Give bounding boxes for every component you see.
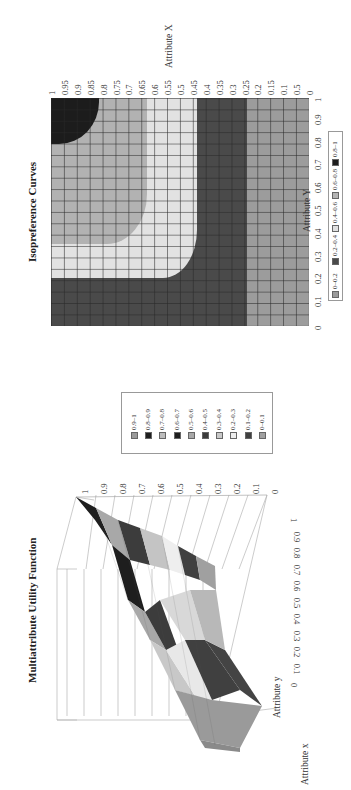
iso-x-tick: 0 (305, 91, 315, 95)
mau-z-tick: 0.5 (175, 483, 185, 494)
legend-label: 0.2–0.4 (331, 235, 339, 256)
legend-swatch (332, 291, 339, 298)
iso-x-tick: 0.4 (202, 84, 212, 95)
iso-x-tick: 0.5 (176, 84, 186, 95)
legend-swatch (216, 432, 223, 439)
legend-swatch (332, 225, 339, 232)
iso-x-tick: 0.35 (215, 80, 225, 95)
iso-legend-item: 0–0.2 (331, 273, 339, 298)
mau-y-tick: 0.7 (292, 564, 302, 575)
legend-swatch (159, 432, 166, 439)
mau-legend-item: 0.7–0.8 (158, 409, 166, 439)
mau-y-tick: 1 (289, 518, 299, 522)
iso-x-tick: 0.15 (266, 80, 276, 95)
legend-label: 0–0.2 (331, 273, 339, 289)
iso-x-tick: 0.25 (241, 80, 251, 95)
iso-y-tick: 0 (313, 326, 323, 330)
iso-x-tick: 0.65 (137, 80, 147, 95)
mau-z-tick: 1 (80, 490, 90, 494)
mau-legend-item: 0.3–0.4 (215, 409, 223, 439)
iso-x-tick: 0.7 (124, 84, 134, 95)
iso-attribute-y-label: Attribute Y (302, 189, 312, 232)
legend-swatch (187, 432, 194, 439)
mau-y-tick: 0.4 (292, 614, 302, 625)
iso-legend-item: 0.6–0.8 (331, 169, 339, 199)
mau-legend-item: 0.4–0.5 (201, 409, 209, 439)
mau-legend-item: 0.6–0.7 (173, 409, 181, 439)
mau-z-tick: 0.6 (156, 483, 166, 494)
legend-label: 0.8–0.9 (144, 409, 152, 430)
mau-y-tick: 0.6 (292, 581, 302, 592)
mau-y-tick: 0.8 (292, 548, 302, 559)
legend-swatch (332, 258, 339, 265)
iso-y-tick: 0.6 (313, 183, 323, 194)
mau-z-tick: 0.7 (137, 483, 147, 494)
legend-swatch (131, 432, 138, 439)
mau-y-tick: 0 (289, 683, 299, 687)
iso-x-tick: 0.75 (112, 80, 122, 95)
legend-label: 0.1–0.2 (244, 409, 252, 430)
legend-label: 0.9–1 (130, 414, 138, 430)
legend-label: 0.6–0.7 (173, 409, 181, 430)
iso-chart-title: Isopreference Curves (26, 162, 38, 262)
iso-x-tick: 0.8 (99, 84, 109, 95)
mau-z-tick: 0.4 (194, 483, 204, 494)
mau-attribute-y-label: Attribute y (272, 677, 282, 718)
mau-attribute-x-label: Attribute x (300, 744, 310, 785)
mau-legend-item: 0.2–0.3 (229, 409, 237, 439)
legend-label: 0–0.1 (258, 414, 266, 430)
mau-legend-item: 0–0.1 (258, 414, 266, 439)
iso-y-tick: 0.3 (313, 251, 323, 262)
mau-y-tick: 0.3 (292, 630, 302, 641)
iso-x-tick: 0.9 (73, 84, 83, 95)
mau-z-tick: 0.1 (251, 483, 261, 494)
iso-attribute-x-label: Attribute X (164, 24, 174, 68)
iso-y-tick: 0.5 (313, 205, 323, 216)
legend-label: 0.5–0.6 (187, 409, 195, 430)
legend-swatch (244, 432, 251, 439)
iso-legend-item: 0.8–1 (331, 141, 339, 166)
mau-legend-item: 0.5–0.6 (187, 409, 195, 439)
iso-y-tick: 0.1 (313, 297, 323, 308)
mau-legend-item: 0.1–0.2 (244, 409, 252, 439)
iso-x-tick: 0.6 (150, 84, 160, 95)
legend-label: 0.3–0.4 (215, 409, 223, 430)
mau-legend: 0.9–10.8–0.90.7–0.80.6–0.70.5–0.60.4–0.5… (121, 392, 273, 454)
iso-x-tick: 0.3 (228, 84, 238, 95)
mau-y-tick: 0.1 (292, 663, 302, 674)
legend-label: 0.6–0.8 (331, 169, 339, 190)
mau-y-tick: 0.9 (292, 531, 302, 542)
iso-x-tick: 0.1 (279, 84, 289, 95)
iso-legend-item: 0.4–0.6 (331, 202, 339, 232)
iso-x-tick: 0.5 (292, 84, 302, 95)
iso-x-tick: 1 (47, 91, 57, 95)
iso-x-tick: 0.85 (86, 80, 96, 95)
iso-y-tick: 0.4 (313, 228, 323, 239)
mau-y-tick: 0.5 (292, 597, 302, 608)
iso-legend-item: 0.2–0.4 (331, 235, 339, 265)
legend-swatch (230, 432, 237, 439)
iso-x-tick: 0.95 (60, 80, 70, 95)
legend-swatch (145, 432, 152, 439)
legend-label: 0.4–0.6 (331, 202, 339, 223)
iso-x-tick: 0.2 (253, 84, 263, 95)
legend-swatch (202, 432, 209, 439)
legend-label: 0.2–0.3 (229, 409, 237, 430)
iso-y-tick: 0.8 (313, 137, 323, 148)
iso-y-tick: 1 (313, 98, 323, 102)
legend-label: 0.7–0.8 (158, 409, 166, 430)
legend-label: 0.8–1 (331, 141, 339, 157)
mau-z-tick: 0 (270, 490, 280, 494)
iso-x-tick: 0.45 (189, 80, 199, 95)
legend-label: 0.4–0.5 (201, 409, 209, 430)
iso-y-tick: 0.2 (313, 274, 323, 285)
mau-z-tick: 0.8 (118, 483, 128, 494)
mau-z-tick: 0.3 (213, 483, 223, 494)
legend-swatch (173, 432, 180, 439)
legend-swatch (332, 159, 339, 166)
iso-plot-area (51, 98, 309, 326)
legend-swatch (332, 192, 339, 199)
iso-y-tick: 0.9 (313, 114, 323, 125)
iso-legend: 0–0.20.2–0.40.4–0.60.6–0.80.8–1 (328, 131, 343, 301)
mau-y-tick: 0.2 (292, 647, 302, 658)
